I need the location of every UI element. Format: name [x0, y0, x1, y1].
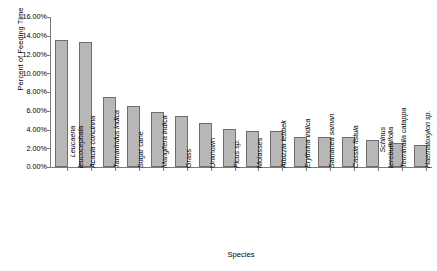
y-tick-label: 14.00%	[11, 32, 47, 39]
x-tick-label: Samanea saman	[328, 114, 336, 168]
x-axis-tick-labels: LeucaenaleucocephalaAcacia concinnaTamar…	[50, 168, 432, 246]
x-tick-label: Terminalia catappa	[400, 108, 408, 168]
x-tick-label: Cassia fistula	[352, 125, 360, 168]
y-tick-label: 8.00%	[11, 88, 47, 95]
y-tick-label: 0.00%	[11, 163, 47, 170]
bar	[55, 40, 68, 168]
x-tick-label: Tamarindus indica	[113, 110, 121, 168]
x-tick-label: Albizzia lebbek	[280, 120, 288, 168]
x-tick-label: Sugar cane	[137, 131, 145, 168]
bar	[366, 140, 379, 167]
y-tick-label: 12.00%	[11, 51, 47, 58]
y-tick-label: 16.00%	[11, 13, 47, 20]
x-tick-label: Grass	[185, 149, 193, 168]
x-tick-label: Ficus sp.	[233, 139, 241, 168]
x-axis-title: Species	[50, 250, 432, 259]
x-tick-label: Haematoxylon sp.	[424, 110, 432, 168]
y-axis-tick-labels: 0.00%2.00%4.00%6.00%8.00%10.00%12.00%14.…	[11, 13, 47, 173]
x-tick-label: Schinusterebuthifolia	[379, 127, 395, 168]
x-tick-label: Mangifera indica	[161, 115, 169, 168]
x-tick-label: Unknown	[209, 138, 217, 168]
y-tick-label: 6.00%	[11, 107, 47, 114]
x-tick-label: Acacia concinna	[89, 116, 97, 168]
x-tick-label: Leucaenaleucocephala	[69, 126, 85, 168]
y-tick-label: 10.00%	[11, 70, 47, 77]
y-tick-label: 4.00%	[11, 126, 47, 133]
x-tick-label: Molasses	[256, 138, 264, 168]
x-tick-label: Erythrina indica	[304, 118, 312, 168]
y-tick-label: 2.00%	[11, 145, 47, 152]
bar-chart-figure: Percent of Feeding Time 0.00%2.00%4.00%6…	[0, 0, 437, 271]
